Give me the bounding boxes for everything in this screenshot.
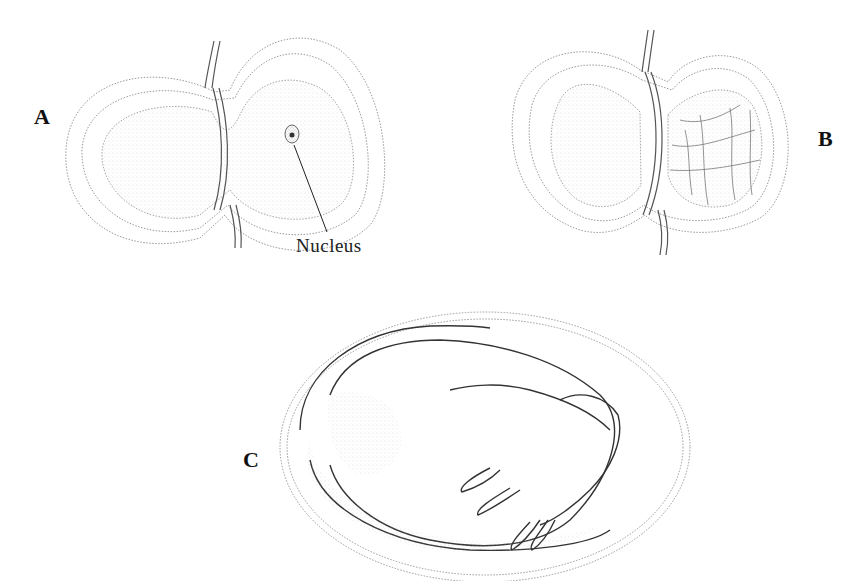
panel-label-c: C [243,447,259,473]
nucleus-callout-label: Nucleus [296,235,362,257]
panel-b-drawing [512,30,788,255]
panel-label-b: B [818,126,833,152]
panel-a-drawing [66,38,385,250]
panel-c-drawing [280,312,690,581]
figure-canvas [0,0,859,581]
panel-label-a: A [34,104,50,130]
